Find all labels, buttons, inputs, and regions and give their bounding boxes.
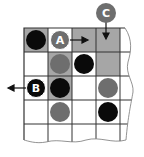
disc-a-gray: A (50, 30, 70, 50)
board-diagram: A B C (0, 0, 144, 157)
black-disc (26, 30, 46, 50)
callout-c: C (96, 3, 116, 23)
label-a: A (56, 34, 65, 47)
gray-disc (50, 54, 70, 74)
gray-disc (98, 78, 118, 98)
label-c: C (102, 7, 110, 20)
disc-b-black: B (26, 78, 46, 98)
black-disc (74, 54, 94, 74)
label-b: B (32, 82, 40, 95)
gray-disc (50, 102, 70, 122)
black-disc (50, 78, 70, 98)
highlight-cell-r0c3 (96, 28, 120, 52)
board-grid (0, 0, 144, 157)
black-disc (98, 102, 118, 122)
highlight-cell-r1c3 (96, 52, 120, 76)
